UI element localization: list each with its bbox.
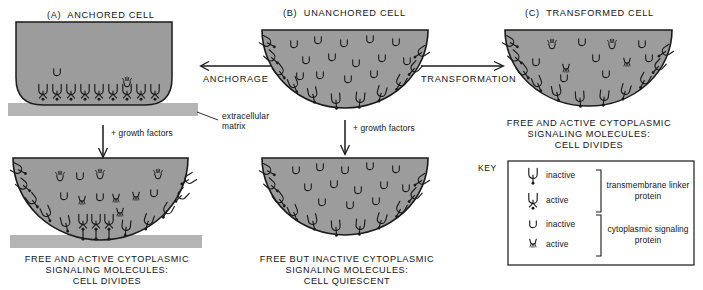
growth-factors-label-left: + growth factors — [111, 129, 173, 139]
key-group-linker-line1: transmembrane linker — [606, 180, 690, 191]
extracellular-matrix-label: extracellular matrix — [222, 112, 269, 132]
key-label-linker-active: active — [546, 196, 568, 206]
key-label-linker-inactive: inactive — [546, 171, 575, 181]
panel-c-caption-line3: CELL DIVIDES — [494, 140, 684, 151]
panel-a-title: (A) ANCHORED CELL — [47, 10, 155, 21]
key-heading: KEY — [478, 163, 497, 173]
panel-b-title: (B) UNANCHORED CELL — [283, 8, 406, 19]
anchorage-label: ANCHORAGE — [203, 74, 269, 85]
panel-b-unanchored-cell — [259, 30, 429, 110]
growth-factors-label-middle: + growth factors — [353, 124, 415, 134]
panel-bottom-left-cell — [10, 158, 202, 248]
bottom-left-caption-line2: SIGNALING MOLECULES: — [12, 265, 202, 276]
bottom-left-caption-line1: FREE AND ACTIVE CYTOPLASMIC — [12, 254, 202, 265]
cell-body-c — [505, 30, 672, 106]
key-group-linker-line2: protein — [606, 191, 690, 202]
bottom-middle-caption-line1: FREE BUT INACTIVE CYTOPLASMIC — [250, 254, 444, 265]
key-box — [508, 161, 694, 265]
panel-c-caption-line1: FREE AND ACTIVE CYTOPLASMIC — [494, 118, 684, 129]
figure-canvas: (A) ANCHORED CELL (B) UNANCHORED CELL (C… — [0, 0, 703, 290]
cell-body-b — [262, 30, 428, 108]
key-label-signaling-inactive: inactive — [546, 220, 575, 230]
panel-c-title: (C) TRANSFORMED CELL — [525, 8, 654, 19]
transformation-label: TRANSFORMATION — [421, 74, 516, 85]
panel-c-caption-line2: SIGNALING MOLECULES: — [494, 129, 684, 140]
key-group-signaling-line1: cytoplasmic signaling — [606, 224, 690, 235]
panel-a-anchored-cell — [8, 22, 198, 116]
key-label-signaling-active: active — [546, 240, 568, 250]
cell-body-bottom-middle — [262, 158, 428, 235]
cell-body-bottom-left — [13, 158, 188, 240]
panel-c-transformed-cell — [502, 30, 673, 108]
matrix-leader-line — [197, 112, 218, 120]
transformation-arrow — [421, 62, 504, 71]
bottom-left-caption-line3: CELL DIVIDES — [12, 276, 202, 287]
panel-bottom-middle-cell — [259, 158, 429, 237]
growth-factors-arrow-left — [99, 125, 108, 158]
key-group-signaling-line2: protein — [606, 235, 690, 246]
bottom-middle-caption-line2: SIGNALING MOLECULES: — [250, 265, 444, 276]
bottom-middle-caption-line3: CELL QUIESCENT — [250, 276, 444, 287]
growth-factors-arrow-middle — [341, 120, 350, 155]
